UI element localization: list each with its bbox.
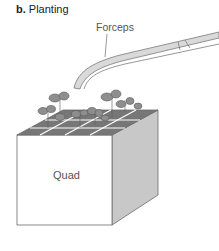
quad-label: Quad — [53, 169, 80, 181]
forceps — [74, 32, 219, 89]
planting-diagram — [0, 0, 219, 251]
forceps-label: Forceps — [96, 21, 134, 33]
